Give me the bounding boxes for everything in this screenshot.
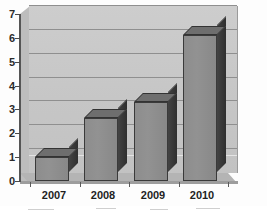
x-axis-tick-label: 2007: [42, 190, 66, 201]
bar-front-face: [35, 157, 69, 181]
x-axis-tick-mark: [30, 182, 31, 187]
bar: [183, 35, 217, 181]
x-axis-tick-labels: 2007200820092010: [0, 190, 267, 206]
bar-series: [0, 0, 267, 212]
x-axis-tick-mark: [179, 182, 180, 187]
x-axis-tick-mark: [228, 182, 229, 187]
scan-speckle: [196, 208, 220, 209]
bar-chart: 01234567 2007200820092010: [0, 0, 267, 212]
x-axis-tick-mark: [129, 182, 130, 187]
x-axis-tick-label: 2010: [190, 190, 214, 201]
bar: [134, 102, 168, 181]
bar-front-face: [183, 35, 217, 181]
bar-side-face: [217, 16, 226, 172]
scan-speckle: [96, 208, 116, 209]
bar-front-face: [84, 118, 118, 181]
scan-speckle: [28, 209, 54, 210]
bar-front-face: [134, 102, 168, 181]
scan-speckle: [150, 209, 168, 210]
x-axis-tick-mark: [80, 182, 81, 187]
bar: [84, 118, 118, 181]
x-axis-tick-label: 2008: [91, 190, 115, 201]
x-axis-tick-label: 2009: [141, 190, 165, 201]
bar: [35, 157, 69, 181]
scan-artifact-band: [0, 206, 267, 212]
